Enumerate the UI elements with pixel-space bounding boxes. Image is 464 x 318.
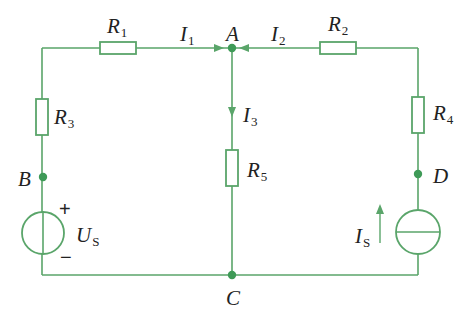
circuit-schematic <box>0 0 464 318</box>
label-us-minus: − <box>60 247 72 267</box>
current-source-is <box>396 210 440 254</box>
arrow-i1-icon <box>214 44 224 52</box>
label-is: IS <box>355 226 370 247</box>
node-d-dot <box>414 170 422 178</box>
node-c-dot <box>228 271 236 279</box>
label-node-a: A <box>226 24 239 45</box>
label-r2: R2 <box>328 14 348 35</box>
label-i1: I1 <box>180 24 195 45</box>
label-r5: R5 <box>247 160 267 181</box>
voltage-source-us <box>22 212 64 254</box>
label-node-d: D <box>433 166 448 187</box>
label-node-c: C <box>226 288 240 309</box>
arrow-i2-icon <box>239 44 249 52</box>
node-b-dot <box>39 173 47 181</box>
resistor-r2 <box>320 42 356 54</box>
label-r3: R3 <box>54 107 74 128</box>
label-us: US <box>76 225 99 246</box>
label-r1: R1 <box>107 16 127 37</box>
label-r4: R4 <box>433 103 453 124</box>
resistor-r1 <box>100 42 136 54</box>
arrow-is-icon <box>376 204 384 243</box>
label-us-plus: + <box>59 199 71 219</box>
label-node-b: B <box>18 169 31 190</box>
resistor-r5 <box>226 150 238 186</box>
resistor-r3 <box>36 99 48 135</box>
label-i2: I2 <box>271 24 286 45</box>
resistor-r4 <box>412 97 424 133</box>
circuit-diagram: R1 R2 R3 R4 R5 I1 I2 I3 A B C D + − US I… <box>0 0 464 318</box>
label-i3: I3 <box>243 105 258 126</box>
arrow-i3-icon <box>228 107 236 117</box>
